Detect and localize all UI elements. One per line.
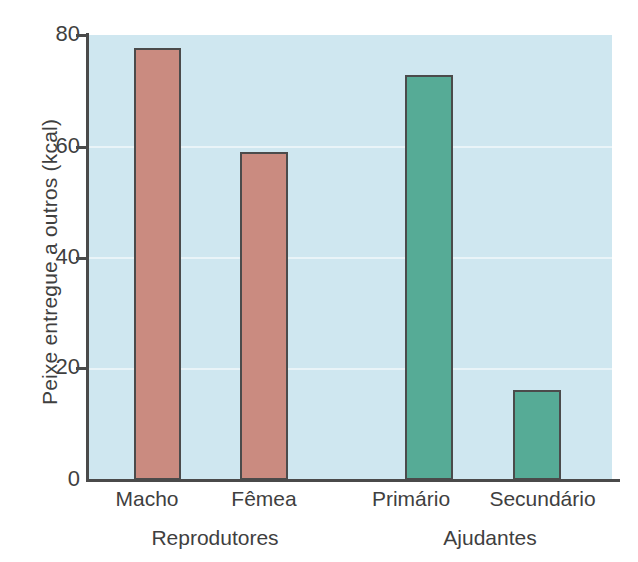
bar-primario[interactable] <box>405 75 453 480</box>
x-axis-line <box>86 479 620 482</box>
y-tick-mark-40 <box>76 257 89 260</box>
plot-area <box>88 35 612 480</box>
x-tick-label-femea: Fêmea <box>204 487 324 511</box>
group-label-reprodutores: Reprodutores <box>125 526 305 550</box>
y-axis-tick-labels: 80 60 40 20 0 <box>20 0 80 562</box>
bar-secundario[interactable] <box>513 390 561 480</box>
y-tick-mark-60 <box>76 146 89 149</box>
x-tick-label-macho: Macho <box>87 487 207 511</box>
x-tick-label-primario: Primário <box>346 487 476 511</box>
y-tick-mark-80 <box>76 34 89 37</box>
y-tick-label-40: 40 <box>34 246 80 268</box>
y-tick-label-60: 60 <box>34 135 80 157</box>
y-tick-mark-20 <box>76 367 89 370</box>
group-label-ajudantes: Ajudantes <box>400 526 580 550</box>
x-tick-label-secundario: Secundário <box>465 487 620 511</box>
bar-chart-figure: Peixe entregue a outros (kcal) 80 60 40 … <box>0 0 638 562</box>
bar-femea[interactable] <box>240 152 288 480</box>
y-tick-label-0: 0 <box>34 468 80 490</box>
y-tick-label-80: 80 <box>34 23 80 45</box>
bar-macho[interactable] <box>134 48 181 480</box>
y-tick-label-20: 20 <box>34 356 80 378</box>
